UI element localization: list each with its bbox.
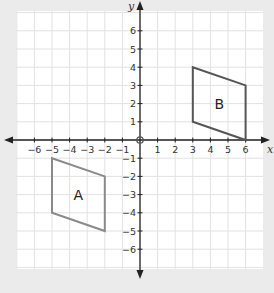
x-tick-label: 5 bbox=[225, 144, 231, 155]
x-tick-label: 3 bbox=[190, 144, 196, 155]
y-tick-label: −2 bbox=[122, 171, 136, 182]
y-axis-down-arrow-icon bbox=[137, 270, 144, 279]
x-tick-label: 4 bbox=[207, 144, 213, 155]
y-axis-up-arrow-icon bbox=[137, 1, 144, 10]
x-axis-left-arrow-icon bbox=[4, 137, 13, 144]
shape-a-label: A bbox=[74, 187, 84, 203]
x-tick-label: −3 bbox=[80, 144, 94, 155]
x-tick-label: −6 bbox=[27, 144, 41, 155]
x-tick-label: 1 bbox=[155, 144, 161, 155]
x-axis-label: x bbox=[267, 143, 274, 156]
y-tick-label: 4 bbox=[130, 62, 136, 73]
coordinate-plane: −6−5−4−3−2−1123456 654321−1−2−3−4−5−6 AB… bbox=[0, 0, 274, 293]
y-axis-label: y bbox=[127, 0, 135, 13]
x-tick-label: −5 bbox=[45, 144, 59, 155]
y-tick-label: −4 bbox=[122, 207, 136, 218]
y-tick-label: 5 bbox=[130, 44, 136, 55]
y-tick-label: −6 bbox=[122, 244, 136, 255]
x-tick-label: 6 bbox=[243, 144, 249, 155]
shape-b-label: B bbox=[214, 96, 224, 112]
x-tick-label: −4 bbox=[63, 144, 77, 155]
y-tick-label: 3 bbox=[130, 80, 136, 91]
y-tick-label: −1 bbox=[122, 153, 136, 164]
y-tick-label: 2 bbox=[130, 98, 136, 109]
y-tick-label: 6 bbox=[130, 25, 136, 36]
y-tick-label: −5 bbox=[122, 226, 136, 237]
y-tick-label: 1 bbox=[130, 116, 136, 127]
y-tick-label: −3 bbox=[122, 189, 136, 200]
x-tick-label: −2 bbox=[98, 144, 112, 155]
x-tick-label: 2 bbox=[172, 144, 178, 155]
